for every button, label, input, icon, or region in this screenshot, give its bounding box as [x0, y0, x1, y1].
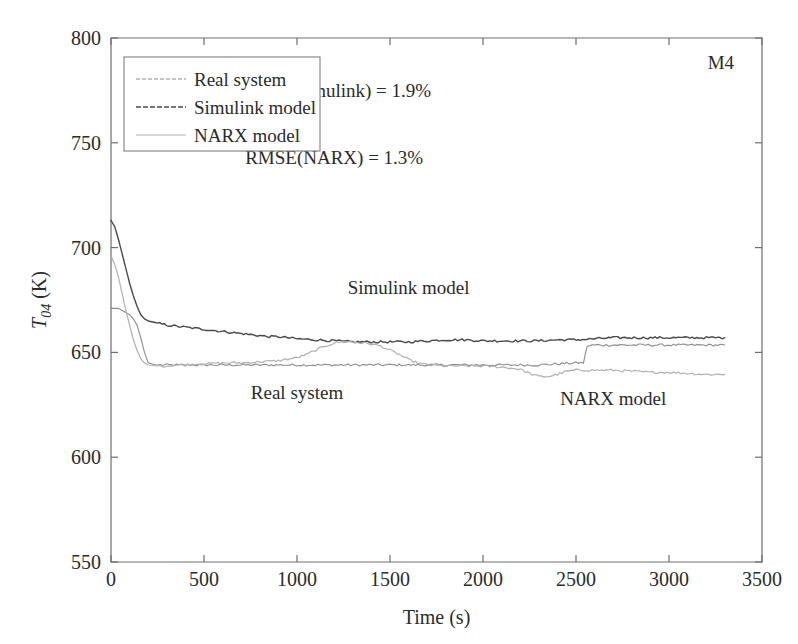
series-narx-model	[111, 256, 725, 377]
legend-label-simulink-model: Simulink model	[194, 97, 316, 118]
y-axis-title-subscript: 04	[39, 304, 54, 318]
y-tick-label: 550	[71, 551, 101, 573]
figure-container: 0500100015002000250030003500 55060065070…	[0, 0, 798, 644]
annotation-curve-narx: NARX model	[560, 388, 666, 409]
y-tick-label: 700	[71, 237, 101, 259]
x-tick-label: 3500	[742, 568, 782, 590]
annotation-curve-real-system: Real system	[251, 382, 344, 403]
y-axis-title: T04 (K)	[28, 271, 54, 329]
chart-svg: 0500100015002000250030003500 55060065070…	[0, 0, 798, 644]
x-tick-label: 3000	[649, 568, 689, 590]
y-axis-title-unit: (K)	[28, 271, 51, 304]
x-tick-label: 500	[189, 568, 219, 590]
svg-text:T04 (K): T04 (K)	[28, 271, 54, 329]
y-tick-label: 650	[71, 341, 101, 363]
figure-corner-label: M4	[708, 52, 735, 73]
annotation-curve-simulink: Simulink model	[348, 277, 470, 298]
data-series-group	[111, 220, 725, 377]
x-tick-label: 2500	[556, 568, 596, 590]
x-axis-title: Time (s)	[403, 606, 471, 629]
x-tick-label: 2000	[463, 568, 503, 590]
y-tick-label: 750	[71, 132, 101, 154]
chart-legend: Real systemSimulink modelNARX model	[124, 57, 320, 151]
y-tick-label: 800	[71, 27, 101, 49]
x-tick-label: 1500	[370, 568, 410, 590]
y-tick-labels: 550600650700750800	[71, 27, 101, 573]
legend-label-narx-model: NARX model	[194, 125, 300, 146]
y-tick-label: 600	[71, 446, 101, 468]
legend-label-real-system: Real system	[194, 69, 287, 90]
x-tick-label: 0	[106, 568, 116, 590]
x-tick-label: 1000	[277, 568, 317, 590]
x-tick-labels: 0500100015002000250030003500	[106, 568, 782, 590]
